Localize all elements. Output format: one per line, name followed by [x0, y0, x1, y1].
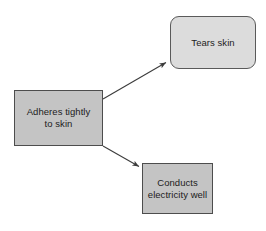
node-adheres-tightly-to-skin[interactable]: Adheres tightly to skin [14, 90, 103, 146]
node-tears-skin[interactable]: Tears skin [170, 16, 256, 69]
node-label: Conducts electricity well [145, 177, 210, 201]
node-label: Tears skin [188, 37, 237, 49]
node-label: Adheres tightly to skin [24, 106, 94, 130]
diagram-canvas: Adheres tightly to skin Tears skin Condu… [0, 0, 266, 231]
node-conducts-electricity-well[interactable]: Conducts electricity well [142, 163, 213, 214]
edge-source-to-tears [103, 63, 166, 100]
edge-source-to-conducts [103, 146, 139, 167]
